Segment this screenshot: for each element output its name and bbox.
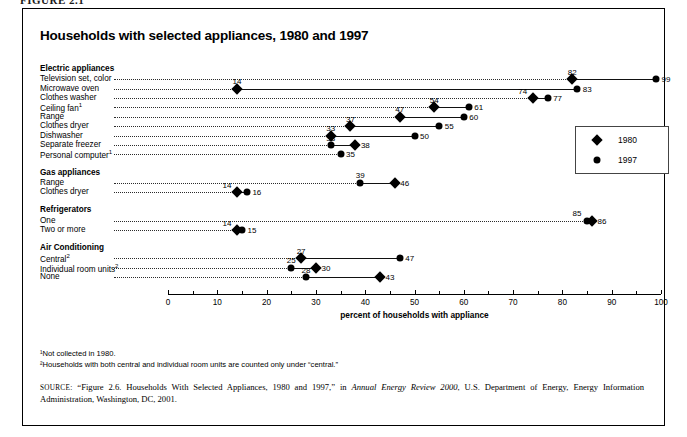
value-label: 60 (469, 112, 478, 121)
x-axis-tick-label: 50 (410, 298, 419, 307)
x-axis-tick-label: 60 (459, 298, 468, 307)
value-label: 25 (287, 256, 296, 265)
group-heading-air-conditioning: Air Conditioning (40, 243, 104, 252)
value-label: 43 (386, 273, 395, 282)
group-heading-refrigerators: Refrigerators (40, 205, 91, 214)
x-axis-tick (612, 290, 613, 294)
row-label-none: None (40, 272, 60, 281)
value-label: 28 (302, 265, 311, 274)
marker-1997 (357, 179, 364, 186)
x-axis-tick (661, 290, 662, 294)
row-leader (114, 154, 339, 155)
row-connector (306, 277, 380, 278)
x-axis-tick (242, 291, 243, 294)
x-axis-tick-label: 40 (361, 298, 370, 307)
row-label-microwave-oven: Microwave oven (40, 84, 99, 93)
marker-1997 (303, 274, 310, 281)
marker-1980 (527, 92, 538, 103)
x-axis-tick (365, 290, 366, 294)
marker-1980 (310, 262, 321, 273)
x-axis-tick (217, 290, 218, 294)
row-label-personal-computer: Personal computer1 (40, 149, 112, 160)
x-axis-tick (562, 290, 563, 294)
value-label: 85 (573, 209, 582, 218)
value-label: 16 (252, 188, 261, 197)
value-label: 35 (346, 150, 355, 159)
x-axis-tick (538, 291, 539, 294)
chart-legend (575, 126, 669, 174)
figure-caption: FIGURE 2.1 (20, 0, 84, 4)
value-label: 37 (346, 114, 355, 123)
row-connector (331, 136, 415, 137)
value-label: 86 (598, 216, 607, 225)
marker-1997 (411, 132, 418, 139)
row-label-dishwasher: Dishwasher (40, 131, 83, 140)
value-label: 14 (223, 180, 232, 189)
value-label: 47 (405, 254, 414, 263)
value-label: 14 (233, 77, 242, 86)
value-label: 54 (430, 95, 439, 104)
x-axis-tick (439, 291, 440, 294)
value-label: 83 (583, 84, 592, 93)
row-label-clothes-dryer: Clothes dryer (40, 121, 89, 130)
marker-1980 (231, 187, 242, 198)
row-leader (114, 136, 329, 137)
marker-1997 (243, 189, 250, 196)
legend-label-1980: 1980 (618, 135, 637, 145)
row-leader (114, 126, 348, 127)
row-leader (114, 277, 304, 278)
figure-page: FIGURE 2.1 Households with selected appl… (0, 0, 687, 437)
group-heading-electric-appliances: Electric appliances (40, 64, 114, 73)
row-leader (114, 268, 289, 269)
row-leader (114, 107, 432, 108)
dot-plot-chart: Electric appliancesTelevision set, color… (22, 58, 665, 328)
x-axis-tick-label: 10 (213, 298, 222, 307)
row-label-clothes-dryer: Clothes dryer (40, 187, 89, 196)
source-note: SOURCE: “Figure 2.6. Households With Sel… (40, 381, 644, 405)
value-label: 33 (326, 124, 335, 133)
source-label: SOURCE: (40, 384, 72, 392)
x-axis-tick (390, 291, 391, 294)
marker-1997 (460, 113, 467, 120)
group-heading-gas-appliances: Gas appliances (40, 168, 100, 177)
row-leader (114, 145, 329, 146)
x-axis-tick (464, 290, 465, 294)
value-label: 82 (568, 67, 577, 76)
x-axis-tick (341, 291, 342, 294)
marker-1997 (465, 104, 472, 111)
row-label-range: Range (40, 178, 64, 187)
x-axis-tick (513, 290, 514, 294)
marker-1997 (544, 95, 551, 102)
value-label: 46 (400, 178, 409, 187)
marker-1997 (327, 142, 334, 149)
value-label: 33 (326, 133, 335, 142)
row-leader (114, 98, 531, 99)
row-label-separate-freezer: Separate freezer (40, 140, 101, 149)
x-axis-tick (488, 291, 489, 294)
marker-1980 (389, 177, 400, 188)
source-text-1: “Figure 2.6. Households With Selected Ap… (72, 382, 351, 392)
row-label-two-or-more: Two or more (40, 225, 86, 234)
x-axis-tick-label: 70 (509, 298, 518, 307)
value-label: 39 (356, 171, 365, 180)
value-label: 61 (474, 103, 483, 112)
row-connector (434, 107, 469, 108)
x-axis-tick-label: 100 (654, 298, 668, 307)
value-label: 47 (395, 105, 404, 114)
row-connector (301, 258, 400, 259)
footnote-1: ¹Not collected in 1980. (40, 348, 640, 359)
marker-1997 (574, 85, 581, 92)
row-leader (114, 230, 235, 231)
marker-1980 (374, 272, 385, 283)
row-leader (114, 258, 299, 259)
value-label: 27 (297, 246, 306, 255)
x-axis-tick-label: 20 (262, 298, 271, 307)
marker-1997 (584, 217, 591, 224)
marker-1997 (653, 76, 660, 83)
row-label-range: Range (40, 112, 64, 121)
value-label: 38 (361, 141, 370, 150)
value-label: 14 (223, 218, 232, 227)
x-axis-tick (636, 291, 637, 294)
marker-1997 (288, 264, 295, 271)
row-connector (400, 117, 464, 118)
